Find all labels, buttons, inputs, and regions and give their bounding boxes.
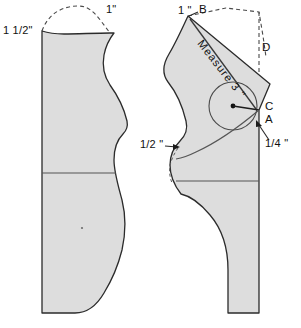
- left-neck-dim-label: 1": [106, 4, 116, 15]
- left-piece-outline: [42, 31, 127, 313]
- point-d-label: D: [262, 42, 270, 54]
- pattern-drawing-canvas: [0, 0, 301, 328]
- point-a-label: A: [265, 114, 273, 126]
- quarter-inch-dim-label: 1/4 ": [265, 138, 288, 149]
- left-piece-mark: [81, 227, 83, 229]
- right-top-dim-label: 1 ": [178, 5, 192, 16]
- point-b-label: B: [199, 4, 207, 16]
- pattern-diagram: 1 1/2" 1" 1 " B D C A 1/4 " 1/2 " Measur…: [0, 0, 301, 328]
- point-c-label: C: [265, 101, 273, 113]
- half-inch-dim-label: 1/2 ": [140, 139, 163, 150]
- left-original-shoulder-dashed: [42, 6, 110, 33]
- left-shoulder-dim-label: 1 1/2": [3, 25, 33, 36]
